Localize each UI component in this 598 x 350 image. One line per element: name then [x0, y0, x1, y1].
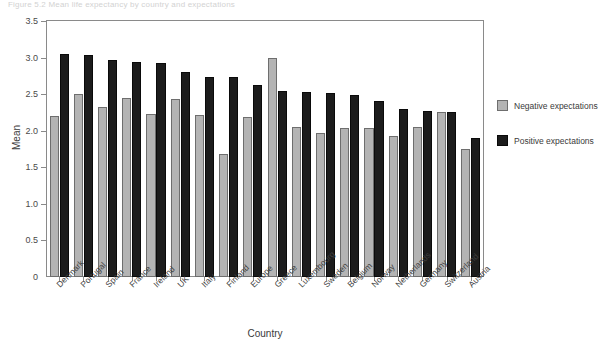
- y-tick-mark: [41, 167, 46, 168]
- bar-positive-expectations: [253, 85, 262, 277]
- bar-positive-expectations: [60, 54, 69, 277]
- bar-negative-expectations: [146, 114, 155, 277]
- bar-positive-expectations: [374, 101, 383, 277]
- y-axis-ticks: 00.51.01.52.02.53.03.5: [0, 0, 38, 350]
- bar-positive-expectations: [350, 95, 359, 277]
- bars-layer: [47, 21, 483, 277]
- bar-group: [340, 21, 359, 277]
- bar-group: [292, 21, 311, 277]
- bar-negative-expectations: [219, 154, 228, 277]
- bar-positive-expectations: [278, 91, 287, 278]
- y-tick-label: 0.5: [8, 235, 38, 245]
- bar-positive-expectations: [132, 62, 141, 277]
- bar-group: [461, 21, 480, 277]
- bar-positive-expectations: [205, 77, 214, 277]
- bar-group: [219, 21, 238, 277]
- legend-swatch-negative-icon: [497, 100, 508, 111]
- bar-negative-expectations: [389, 136, 398, 277]
- bar-group: [437, 21, 456, 277]
- y-tick-label: 1.0: [8, 199, 38, 209]
- bar-group: [146, 21, 165, 277]
- bar-negative-expectations: [292, 127, 301, 277]
- bar-negative-expectations: [268, 58, 277, 277]
- bar-group: [364, 21, 383, 277]
- bar-group: [50, 21, 69, 277]
- y-axis-title: Mean: [11, 108, 22, 168]
- figure-caption: Figure 5.2 Mean life expectancy by count…: [8, 0, 428, 9]
- legend-label-negative: Negative expectations: [514, 101, 598, 111]
- x-axis-title: Country: [0, 328, 530, 339]
- y-tick-mark: [41, 58, 46, 59]
- bar-positive-expectations: [399, 109, 408, 277]
- bar-positive-expectations: [447, 112, 456, 277]
- bar-positive-expectations: [181, 72, 190, 277]
- bar-group: [98, 21, 117, 277]
- bar-negative-expectations: [74, 94, 83, 277]
- y-tick-mark: [41, 21, 46, 22]
- bar-negative-expectations: [243, 117, 252, 277]
- legend-swatch-positive-icon: [497, 135, 508, 146]
- bar-negative-expectations: [98, 107, 107, 277]
- legend-item-negative: Negative expectations: [497, 100, 589, 111]
- bar-group: [268, 21, 287, 277]
- bar-negative-expectations: [364, 128, 373, 277]
- bar-negative-expectations: [50, 116, 59, 277]
- bar-group: [316, 21, 335, 277]
- y-tick-label: 0: [8, 272, 38, 282]
- bar-negative-expectations: [340, 128, 349, 277]
- bar-group: [122, 21, 141, 277]
- y-tick-mark: [41, 131, 46, 132]
- y-tick-mark: [41, 240, 46, 241]
- bar-positive-expectations: [108, 60, 117, 277]
- bar-group: [74, 21, 93, 277]
- legend-item-positive: Positive expectations: [497, 135, 589, 146]
- bar-positive-expectations: [229, 77, 238, 277]
- legend-label-positive: Positive expectations: [514, 136, 594, 146]
- bar-group: [195, 21, 214, 277]
- y-tick-label: 3.0: [8, 53, 38, 63]
- bar-positive-expectations: [156, 63, 165, 277]
- chart-legend: Negative expectations Positive expectati…: [497, 100, 589, 170]
- bar-negative-expectations: [122, 98, 131, 277]
- y-tick-mark: [41, 94, 46, 95]
- bar-group: [389, 21, 408, 277]
- bar-group: [243, 21, 262, 277]
- bar-negative-expectations: [195, 115, 204, 277]
- y-tick-label: 2.5: [8, 89, 38, 99]
- y-tick-label: 3.5: [8, 16, 38, 26]
- bar-group: [171, 21, 190, 277]
- bar-positive-expectations: [302, 92, 311, 277]
- y-tick-mark: [41, 204, 46, 205]
- bar-negative-expectations: [437, 112, 446, 277]
- bar-group: [413, 21, 432, 277]
- bar-negative-expectations: [171, 99, 180, 277]
- bar-positive-expectations: [84, 55, 93, 277]
